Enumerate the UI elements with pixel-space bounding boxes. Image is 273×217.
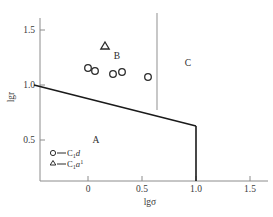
- x-tick-label-2: 1.0: [190, 184, 202, 194]
- x-tick-label-3: 1.5: [244, 184, 256, 194]
- y-axis-title: lgr: [6, 91, 16, 102]
- x-tick-label-0: 0: [86, 184, 91, 194]
- scatter-plot-svg: 0 0.5 1.0 1.5 0.5 1.0 1.5 lgσ lgr A B: [0, 0, 273, 217]
- region-label-b: B: [114, 51, 120, 61]
- x-axis-title: lgσ: [144, 197, 157, 207]
- chart-container: 0 0.5 1.0 1.5 0.5 1.0 1.5 lgσ lgr A B: [0, 0, 273, 217]
- y-tick-label-0: 0.5: [23, 135, 35, 145]
- region-label-c: C: [185, 58, 191, 68]
- y-tick-label-1: 1.0: [23, 80, 35, 90]
- region-label-a: A: [93, 135, 100, 145]
- x-tick-label-1: 0.5: [136, 184, 148, 194]
- y-tick-label-2: 1.5: [23, 25, 35, 35]
